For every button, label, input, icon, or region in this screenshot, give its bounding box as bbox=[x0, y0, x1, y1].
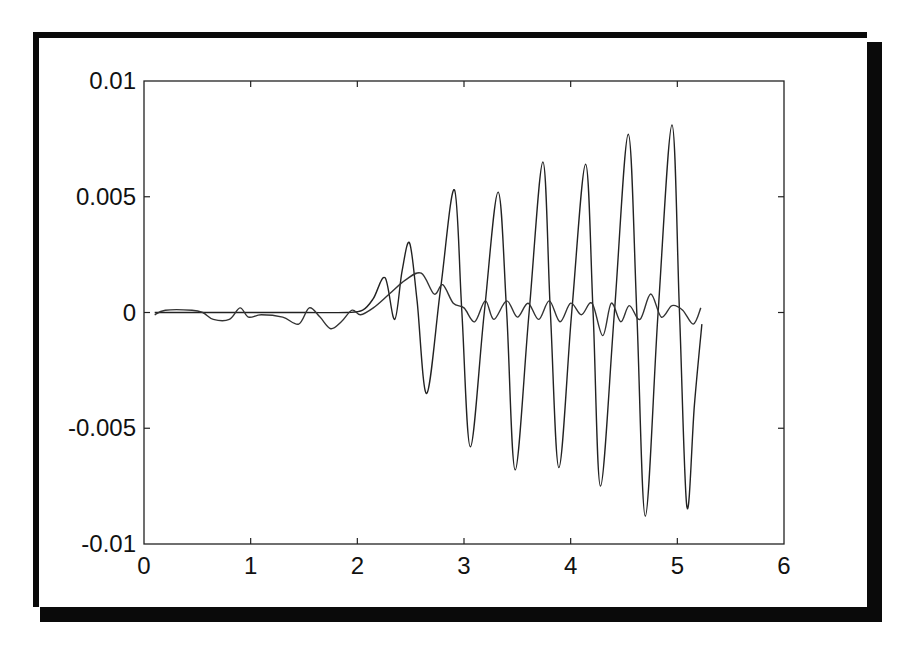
series-layer bbox=[155, 125, 702, 516]
y-tick-label: -0.005 bbox=[68, 414, 136, 441]
x-tick-label: 5 bbox=[671, 552, 684, 579]
series-line-signal-small bbox=[155, 273, 701, 336]
x-tick-label: 3 bbox=[457, 552, 470, 579]
x-tick-label: 4 bbox=[564, 552, 577, 579]
x-tick-label: 0 bbox=[137, 552, 150, 579]
y-tick-label: 0 bbox=[123, 299, 136, 326]
line-chart: 0123456 0.010.0050-0.005-0.01 bbox=[0, 0, 905, 649]
y-axis-labels: 0.010.0050-0.005-0.01 bbox=[68, 67, 136, 557]
y-tick-label: 0.005 bbox=[76, 183, 136, 210]
y-tick-label: -0.01 bbox=[81, 530, 136, 557]
y-tick-label: 0.01 bbox=[89, 67, 136, 94]
x-axis-labels: 0123456 bbox=[137, 552, 790, 579]
x-tick-label: 2 bbox=[351, 552, 364, 579]
x-tick-label: 6 bbox=[777, 552, 790, 579]
x-tick-label: 1 bbox=[244, 552, 257, 579]
